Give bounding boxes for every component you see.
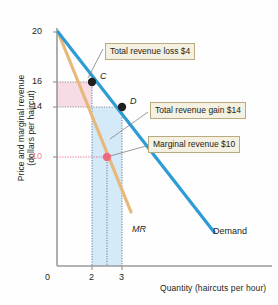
data-point-label-c: C <box>100 71 107 81</box>
chart-figure: Price and marginal revenue (dollars per … <box>0 0 278 305</box>
y-tick-label-14: 14 <box>32 101 42 111</box>
x-tick-label-0: 0 <box>45 272 50 282</box>
annotation-total-revenue-gain: Total revenue gain $14 <box>150 102 246 119</box>
data-point-c <box>88 78 96 86</box>
y-axis-title-line1: Price and marginal revenue <box>16 58 26 198</box>
annotation-total-revenue-loss: Total revenue loss $4 <box>105 43 195 60</box>
x-tick-label-2: 2 <box>89 272 94 282</box>
annotation-marginal-revenue: Marginal revenue $10 <box>148 136 240 153</box>
series-line-demand <box>58 32 214 232</box>
y-tick-label-20: 20 <box>32 26 42 36</box>
series-label-mr: MR <box>132 224 146 234</box>
data-point-label-d: D <box>130 96 137 106</box>
series-label-demand: Demand <box>213 226 247 236</box>
data-point-marginal-revenue <box>103 153 111 161</box>
data-point-d <box>118 103 126 111</box>
x-tick-label-3: 3 <box>119 272 124 282</box>
y-tick-label-16: 16 <box>32 76 42 86</box>
x-axis-title: Quantity (haircuts per hour) <box>160 283 266 293</box>
y-tick-label-10: 10 <box>32 151 42 161</box>
